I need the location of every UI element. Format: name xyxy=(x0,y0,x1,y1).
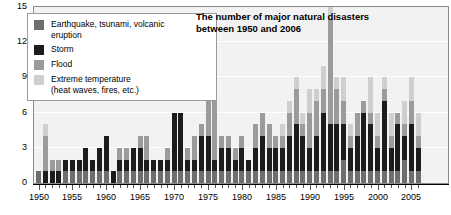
x-tick-1955 xyxy=(72,185,73,190)
x-tick-1991 xyxy=(316,185,317,188)
bar-segment-eq-1976 xyxy=(212,171,217,183)
x-tick-1974 xyxy=(201,185,202,188)
bar-segment-flood-1979 xyxy=(233,148,238,160)
bar-1984 xyxy=(267,124,272,183)
bar-1997 xyxy=(355,113,360,183)
bar-segment-eq-1993 xyxy=(328,171,333,183)
bar-segment-flood-1994 xyxy=(334,89,339,124)
x-axis-line xyxy=(33,184,449,185)
bar-segment-flood-1953 xyxy=(56,160,61,172)
bar-1994 xyxy=(334,77,339,183)
x-tick-1997 xyxy=(357,185,358,188)
bar-segment-eq-1965 xyxy=(138,171,143,183)
x-tick-1988 xyxy=(296,185,297,188)
bar-1999 xyxy=(368,77,373,183)
x-tick-1976 xyxy=(215,185,216,188)
bar-segment-flood-1974 xyxy=(199,124,204,136)
x-tick-1953 xyxy=(59,185,60,188)
bar-segment-eq-2005 xyxy=(409,171,414,183)
bar-segment-storm-1980 xyxy=(239,148,244,171)
bar-segment-eq-1991 xyxy=(314,171,319,183)
bar-segment-storm-1992 xyxy=(321,113,326,172)
bar-segment-flood-1978 xyxy=(226,136,231,148)
bar-segment-temp-1988 xyxy=(294,77,299,89)
x-tick-1992 xyxy=(323,185,324,188)
x-tick-1966 xyxy=(147,185,148,188)
bar-1981 xyxy=(246,160,251,183)
bar-segment-storm-1954 xyxy=(63,160,68,172)
bar-segment-storm-2003 xyxy=(395,124,400,171)
x-tick-1989 xyxy=(303,185,304,188)
legend-swatch-extreme-temperature-icon xyxy=(34,75,44,85)
bar-segment-eq-1967 xyxy=(151,171,156,183)
bar-segment-eq-1975 xyxy=(206,171,211,183)
legend-item-earthquake: Earthquake, tsunami, volcaniceruption xyxy=(34,19,210,40)
x-tick-1963 xyxy=(127,185,128,188)
bar-1990 xyxy=(307,89,312,183)
bar-1977 xyxy=(219,136,224,183)
x-tick-1954 xyxy=(66,185,67,188)
bar-segment-flood-1951 xyxy=(43,136,48,171)
bar-1952 xyxy=(50,160,55,183)
bar-segment-storm-1978 xyxy=(226,148,231,171)
bar-1963 xyxy=(124,148,129,183)
bar-segment-flood-2003 xyxy=(395,113,400,125)
bar-segment-eq-1997 xyxy=(355,171,360,183)
bar-segment-storm-2002 xyxy=(389,148,394,171)
bar-segment-temp-1951 xyxy=(43,124,48,136)
legend-item-storm: Storm xyxy=(34,44,210,55)
bar-segment-flood-1952 xyxy=(50,160,55,172)
y-tick-label-12: 12 xyxy=(0,37,27,46)
bar-segment-flood-1983 xyxy=(260,113,265,136)
bar-segment-eq-2002 xyxy=(389,171,394,183)
bar-segment-eq-1999 xyxy=(368,171,373,183)
bar-1968 xyxy=(158,160,163,183)
bar-segment-storm-1966 xyxy=(144,160,149,172)
bar-segment-storm-1969 xyxy=(165,160,170,172)
bar-1995 xyxy=(341,77,346,183)
x-tick-1994 xyxy=(337,185,338,188)
bar-2000 xyxy=(375,113,380,183)
x-tick-1985 xyxy=(276,185,277,190)
bar-1998 xyxy=(361,101,366,183)
bar-segment-eq-1985 xyxy=(273,171,278,183)
bar-1992 xyxy=(321,66,326,183)
bar-segment-eq-1974 xyxy=(199,171,204,183)
bar-segment-eq-1981 xyxy=(246,171,251,183)
bar-segment-storm-1964 xyxy=(131,148,136,171)
bar-1970 xyxy=(172,113,177,183)
legend-label-storm: Storm xyxy=(51,44,74,55)
bar-segment-flood-1973 xyxy=(192,136,197,159)
bar-segment-storm-2004 xyxy=(402,136,407,159)
bar-1974 xyxy=(199,124,204,183)
x-tick-1987 xyxy=(289,185,290,188)
bar-1969 xyxy=(165,148,170,183)
bar-segment-eq-2003 xyxy=(395,171,400,183)
x-tick-label-2005: 2005 xyxy=(391,192,431,202)
bar-segment-flood-2004 xyxy=(402,124,407,136)
bar-segment-temp-1989 xyxy=(300,113,305,125)
x-tick-1950 xyxy=(39,185,40,190)
bar-segment-eq-1978 xyxy=(226,171,231,183)
x-tick-1990 xyxy=(310,185,311,190)
bar-segment-storm-1951 xyxy=(43,171,48,183)
legend-swatch-storm-icon xyxy=(34,45,44,55)
bar-1959 xyxy=(97,148,102,183)
x-tick-2003 xyxy=(398,185,399,188)
y-tick-label-6: 6 xyxy=(0,108,27,117)
bar-1996 xyxy=(348,124,353,183)
bar-segment-flood-2005 xyxy=(409,101,414,124)
x-tick-1958 xyxy=(93,185,94,188)
bar-1972 xyxy=(185,148,190,183)
x-tick-1961 xyxy=(113,185,114,188)
bar-segment-storm-2005 xyxy=(409,124,414,171)
x-tick-2000 xyxy=(378,185,379,190)
bar-segment-eq-1966 xyxy=(144,171,149,183)
bar-segment-flood-1963 xyxy=(124,148,129,160)
bar-1960 xyxy=(104,136,109,183)
bar-1973 xyxy=(192,136,197,183)
bar-1978 xyxy=(226,136,231,183)
x-tick-1998 xyxy=(364,185,365,188)
x-tick-1979 xyxy=(235,185,236,188)
bar-1986 xyxy=(280,124,285,183)
